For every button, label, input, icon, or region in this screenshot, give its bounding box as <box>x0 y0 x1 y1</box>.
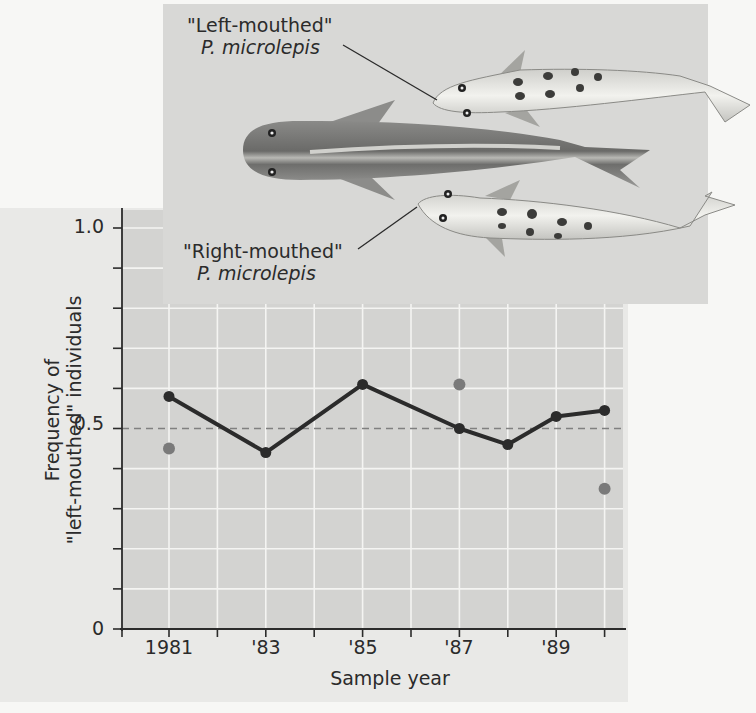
right-mouthed-name: "Right-mouthed" <box>183 240 343 262</box>
x-tick-label: '89 <box>526 636 586 658</box>
y-tick-label: 1.0 <box>54 215 104 237</box>
x-tick-label: '85 <box>333 636 393 658</box>
left-mouthed-species: P. microlepis <box>187 36 333 58</box>
x-tick-label: 1981 <box>139 636 199 658</box>
y-tick-label: 0 <box>54 617 104 639</box>
right-mouthed-leader-line <box>358 207 417 249</box>
left-mouthed-fish-icon <box>433 50 750 127</box>
middle-fish-icon <box>243 100 650 200</box>
fish-illustration <box>0 0 756 713</box>
x-tick-label: '87 <box>429 636 489 658</box>
left-mouthed-leader-line <box>343 45 437 100</box>
x-axis-title: Sample year <box>290 667 490 689</box>
y-tick-label: 0.5 <box>54 412 104 434</box>
left-mouthed-label: "Left-mouthed" P. microlepis <box>187 14 333 58</box>
left-mouthed-name: "Left-mouthed" <box>187 14 333 36</box>
x-tick-label: '83 <box>236 636 296 658</box>
right-mouthed-label: "Right-mouthed" P. microlepis <box>183 240 343 284</box>
right-mouthed-species: P. microlepis <box>183 262 343 284</box>
right-mouthed-fish-icon <box>418 180 735 257</box>
